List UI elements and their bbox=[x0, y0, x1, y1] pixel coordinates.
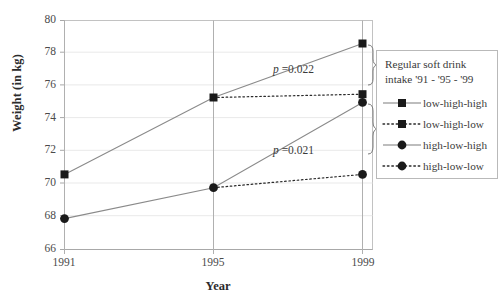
legend-label: high-low-high bbox=[423, 139, 487, 151]
legend-title-line-2: intake '91 - '95 - '99 bbox=[385, 72, 495, 87]
legend-title-line-1: Regular soft drink bbox=[385, 57, 495, 72]
data-point-marker bbox=[209, 183, 218, 192]
legend-title: Regular soft drink intake '91 - '95 - '9… bbox=[385, 57, 495, 87]
legend-label: low-high-high bbox=[423, 97, 487, 109]
data-point-marker bbox=[358, 98, 367, 107]
legend-label: high-low-low bbox=[423, 160, 484, 172]
legend-key-solid-circle-icon bbox=[381, 135, 423, 155]
legend-key-dotted-square-icon bbox=[381, 114, 423, 134]
p-value-upper-text: =0.022 bbox=[279, 63, 314, 75]
chart-container: Weight (in kg) 80 78 76 74 72 70 68 66 1… bbox=[0, 0, 499, 302]
data-point-marker bbox=[60, 214, 69, 223]
p-value-annotation-lower: p =0.021 bbox=[273, 144, 314, 156]
plot-frame bbox=[65, 21, 373, 250]
series-markers-high-low-low bbox=[358, 170, 367, 179]
chart-legend: Regular soft drink intake '91 - '95 - '9… bbox=[376, 50, 498, 179]
data-point-marker bbox=[359, 40, 367, 48]
legend-item-high-low-low[interactable]: high-low-low bbox=[381, 155, 497, 176]
legend-item-low-high-low[interactable]: low-high-low bbox=[381, 113, 497, 134]
legend-label: low-high-low bbox=[423, 118, 484, 130]
legend-key-solid-square-icon bbox=[381, 93, 423, 113]
data-point-marker bbox=[210, 94, 218, 102]
p-value-lower-text: =0.021 bbox=[279, 144, 314, 156]
legend-item-low-high-high[interactable]: low-high-high bbox=[381, 92, 497, 113]
data-point-marker bbox=[358, 170, 367, 179]
data-point-marker bbox=[61, 170, 69, 178]
legend-key-dotted-circle-icon bbox=[381, 156, 423, 176]
legend-items: low-high-high low-high-low bbox=[381, 92, 497, 176]
series-markers-low-high-low bbox=[359, 90, 367, 98]
p-value-annotation-upper: p =0.022 bbox=[273, 63, 314, 75]
legend-item-high-low-high[interactable]: high-low-high bbox=[381, 134, 497, 155]
data-point-marker bbox=[359, 90, 367, 98]
